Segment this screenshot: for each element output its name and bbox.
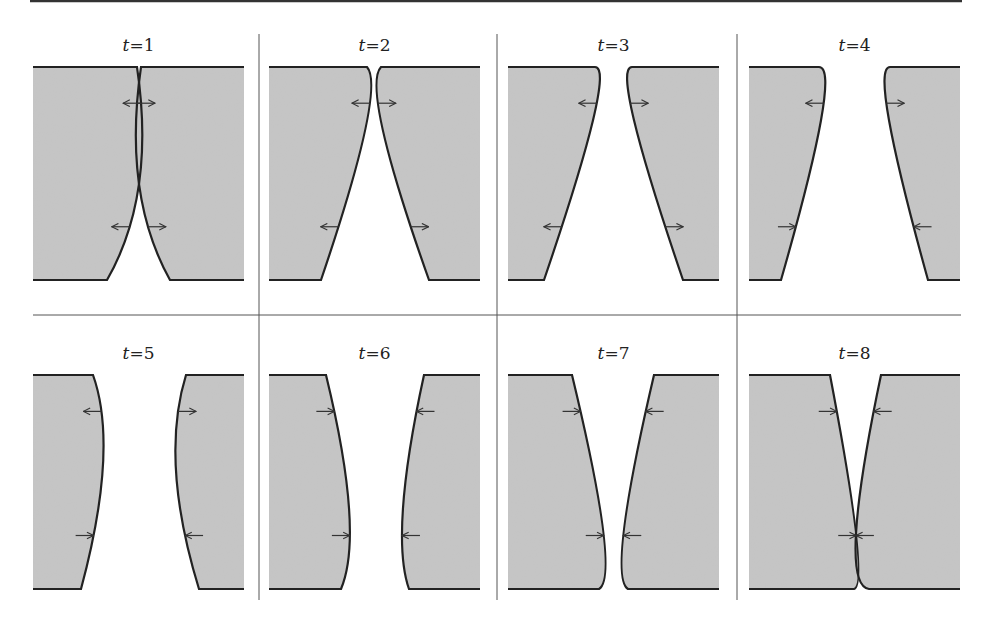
left-solid-region (269, 375, 350, 589)
label-value: 2 (380, 35, 391, 55)
left-solid-region (269, 67, 371, 280)
panel-t-8: t=8 (749, 343, 960, 589)
label-equals: = (365, 35, 379, 55)
panel-label: t=6 (359, 343, 391, 363)
label-value: 5 (144, 343, 155, 363)
label-equals: = (129, 343, 143, 363)
panel-label: t=3 (598, 35, 630, 55)
right-solid-region (376, 67, 480, 280)
label-value: 7 (619, 343, 630, 363)
label-equals: = (845, 343, 859, 363)
panel-label: t=8 (839, 343, 871, 363)
panel-t-7: t=7 (508, 343, 719, 589)
right-solid-region (884, 67, 960, 280)
panel-label: t=7 (598, 343, 630, 363)
right-solid-region (175, 375, 244, 589)
panel-t-1: t=1 (33, 35, 244, 280)
left-solid-region (749, 375, 859, 589)
label-value: 1 (144, 35, 155, 55)
label-equals: = (129, 35, 143, 55)
right-solid-region (622, 375, 719, 589)
left-solid-region (508, 375, 606, 589)
panel-label: t=5 (123, 343, 155, 363)
left-solid-region (33, 67, 142, 280)
label-value: 8 (860, 343, 871, 363)
panel-t-4: t=4 (749, 35, 960, 280)
panel-t-6: t=6 (269, 343, 480, 589)
label-value: 4 (860, 35, 871, 55)
right-solid-region (136, 67, 244, 280)
label-equals: = (604, 35, 618, 55)
panel-t-5: t=5 (33, 343, 244, 589)
panel-label: t=1 (123, 35, 155, 55)
panel-t-3: t=3 (508, 35, 719, 280)
panel-t-2: t=2 (269, 35, 480, 280)
label-equals: = (365, 343, 379, 363)
figure: t=1t=2t=3t=4t=5t=6t=7t=8 (0, 0, 996, 622)
label-value: 3 (619, 35, 630, 55)
right-solid-region (856, 375, 960, 589)
panel-label: t=2 (359, 35, 391, 55)
label-equals: = (845, 35, 859, 55)
left-solid-region (749, 67, 825, 280)
label-equals: = (604, 343, 618, 363)
right-solid-region (402, 375, 480, 589)
left-solid-region (33, 375, 104, 589)
label-value: 6 (380, 343, 391, 363)
panel-label: t=4 (839, 35, 871, 55)
